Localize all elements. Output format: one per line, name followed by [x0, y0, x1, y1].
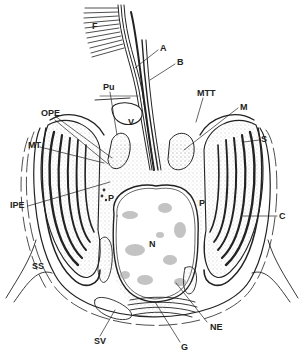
label-A: A — [160, 44, 167, 53]
label-NE: NE — [210, 323, 223, 332]
label-MT: MT — [28, 141, 41, 150]
label-IPE: IPE — [10, 201, 25, 210]
label-F: F — [92, 22, 98, 31]
label-OPE: OPE — [41, 109, 60, 118]
label-P-right: P — [199, 199, 205, 208]
label-P-left: P — [108, 194, 114, 203]
label-G: G — [181, 343, 188, 352]
label-SV: SV — [94, 337, 106, 346]
label-V: V — [128, 118, 134, 127]
label-S: S — [261, 135, 267, 144]
left-lamellae — [41, 115, 104, 286]
label-SS: SS — [32, 262, 44, 271]
cell-diagram: F A B Pu MTT M OPE V S MT P P IPE C N SS… — [0, 0, 304, 362]
label-MTT: MTT — [197, 89, 216, 98]
right-lamellae — [200, 115, 263, 286]
label-N: N — [149, 240, 156, 249]
label-B: B — [177, 58, 184, 67]
label-Pu: Pu — [103, 83, 115, 92]
label-M: M — [240, 103, 248, 112]
flagellum-fibers — [84, 8, 124, 57]
label-C: C — [279, 212, 286, 221]
diagram-drawing — [0, 0, 304, 362]
